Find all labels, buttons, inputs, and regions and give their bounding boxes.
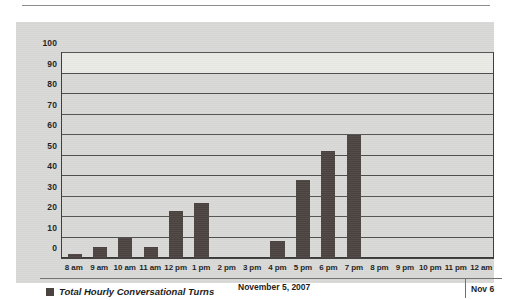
y-tick-label-100: 100 — [43, 38, 57, 48]
bar-slot-4-pm — [265, 53, 290, 258]
x-tick-label-8-am: 8 am — [61, 261, 86, 275]
next-day-label: Nov 6 — [471, 284, 494, 294]
y-tick-label-30: 30 — [47, 182, 57, 192]
x-tick-label-12-pm: 12 pm — [163, 261, 188, 275]
y-tick-label-90: 90 — [47, 59, 57, 69]
x-tick-label-8-pm: 8 pm — [367, 261, 392, 275]
x-tick-label-6-pm: 6 pm — [316, 261, 341, 275]
axis-bottom-rule — [40, 278, 502, 279]
top-divider-rule — [22, 5, 490, 6]
x-tick-label-7-pm: 7 pm — [341, 261, 366, 275]
legend-series-label: Total Hourly Conversational Turns — [59, 286, 214, 297]
bar — [68, 254, 82, 258]
x-tick-label-9-am: 9 am — [86, 261, 111, 275]
bar-slot-7-pm — [341, 53, 366, 258]
bar — [194, 203, 208, 258]
bar — [347, 135, 361, 258]
x-tick-label-4-pm: 4 pm — [265, 261, 290, 275]
bar-slot-1-pm — [189, 53, 214, 258]
bar — [169, 211, 183, 258]
x-tick-label-12-am: 12 am — [469, 261, 494, 275]
y-tick-label-0: 0 — [52, 243, 57, 253]
chart-panel: 0102030405060708090100 8 am9 am10 am11 a… — [16, 22, 494, 283]
y-tick-label-20: 20 — [47, 202, 57, 212]
x-tick-label-10-pm: 10 pm — [418, 261, 443, 275]
bar-slot-12-am — [468, 53, 493, 258]
y-tick-label-10: 10 — [47, 223, 57, 233]
y-tick-label-80: 80 — [47, 79, 57, 89]
bar — [144, 247, 158, 258]
bar-slot-8-am — [62, 53, 87, 258]
bar-slot-11-pm — [442, 53, 467, 258]
chart-legend: Total Hourly Conversational Turns — [46, 286, 214, 297]
bar — [118, 238, 132, 259]
y-tick-label-50: 50 — [47, 141, 57, 151]
x-tick-label-10-am: 10 am — [112, 261, 137, 275]
plot-area: 0102030405060708090100 — [61, 52, 494, 259]
bar — [93, 247, 107, 258]
x-tick-label-11-pm: 11 pm — [443, 261, 468, 275]
x-tick-label-2-pm: 2 pm — [214, 261, 239, 275]
bar-slot-3-pm — [240, 53, 265, 258]
next-day-divider — [465, 278, 466, 298]
bar-slot-11-am — [138, 53, 163, 258]
x-axis-labels: 8 am9 am10 am11 am12 pm1 pm2 pm3 pm4 pm5… — [61, 261, 494, 275]
bar-slot-9-pm — [392, 53, 417, 258]
y-tick-label-60: 60 — [47, 120, 57, 130]
chart-figure: 0102030405060708090100 8 am9 am10 am11 a… — [0, 0, 507, 300]
x-tick-label-5-pm: 5 pm — [290, 261, 315, 275]
bar — [321, 151, 335, 258]
y-tick-label-70: 70 — [47, 100, 57, 110]
legend-swatch-icon — [46, 288, 54, 296]
y-tick-label-40: 40 — [47, 161, 57, 171]
x-tick-label-11-am: 11 am — [137, 261, 162, 275]
bar-series — [62, 53, 493, 258]
bar-slot-8-pm — [366, 53, 391, 258]
x-tick-label-1-pm: 1 pm — [188, 261, 213, 275]
bar-slot-12-pm — [163, 53, 188, 258]
bar-slot-10-pm — [417, 53, 442, 258]
bar-slot-6-pm — [316, 53, 341, 258]
bar-slot-5-pm — [290, 53, 315, 258]
bar-slot-9-am — [87, 53, 112, 258]
bar — [270, 241, 284, 258]
bar — [296, 180, 310, 258]
x-tick-label-3-pm: 3 pm — [239, 261, 264, 275]
bar-slot-10-am — [113, 53, 138, 258]
date-label: November 5, 2007 — [238, 282, 310, 292]
x-tick-label-9-pm: 9 pm — [392, 261, 417, 275]
bar-slot-2-pm — [214, 53, 239, 258]
